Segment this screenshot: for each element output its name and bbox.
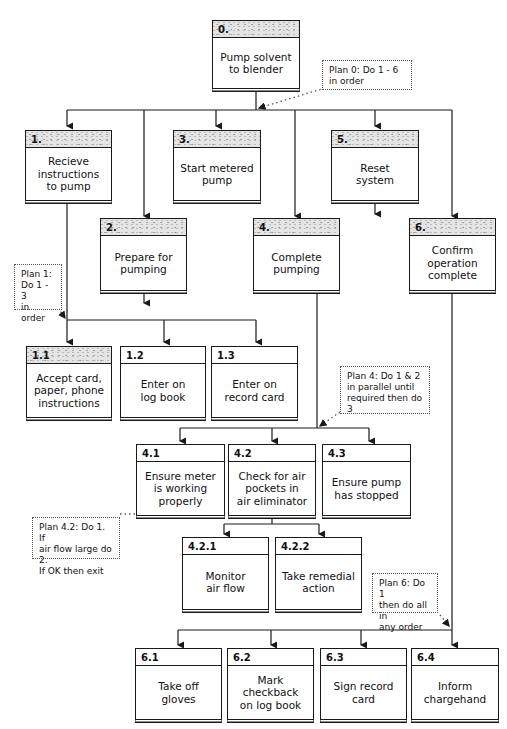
task-id: 1.1 bbox=[27, 347, 111, 364]
plan-0-note: Plan 0: Do 1 - 6 in order bbox=[322, 60, 412, 90]
task-box-4-1: 4.1 Ensure meter is working properly bbox=[136, 444, 225, 516]
task-id: 4.1 bbox=[137, 445, 224, 462]
task-label: Check for air pockets in air eliminator bbox=[229, 462, 315, 515]
task-box-1-2: 1.2 Enter on log book bbox=[120, 346, 206, 418]
hta-diagram: 0. Pump solvent to blender 1. Recieve in… bbox=[0, 0, 507, 729]
task-label: Start metered pump bbox=[174, 148, 260, 200]
task-box-1: 1. Recieve instructions to pump bbox=[25, 130, 112, 201]
task-box-6-1: 6.1 Take off gloves bbox=[135, 648, 222, 720]
task-id: 1.3 bbox=[212, 347, 297, 364]
plan-4-note: Plan 4: Do 1 & 2 in parallel until requi… bbox=[340, 366, 430, 414]
task-label: Inform chargehand bbox=[412, 666, 498, 719]
task-label: Take off gloves bbox=[136, 666, 221, 719]
task-id: 4.2.1 bbox=[183, 538, 268, 555]
task-id: 6. bbox=[410, 219, 495, 236]
task-box-3: 3. Start metered pump bbox=[173, 130, 261, 201]
task-box-4: 4. Complete pumping bbox=[253, 218, 340, 291]
task-box-1-1: 1.1 Accept card, paper, phone instructio… bbox=[26, 346, 112, 418]
task-box-6: 6. Confirm operation complete bbox=[409, 218, 496, 291]
task-box-6-2: 6.2 Mark checkback on log book bbox=[227, 648, 314, 720]
task-label: Accept card, paper, phone instructions bbox=[27, 364, 111, 417]
task-box-4-2-1: 4.2.1 Monitor air flow bbox=[182, 537, 269, 610]
task-label: Ensure meter is working properly bbox=[137, 462, 224, 515]
task-label: Reset system bbox=[332, 148, 418, 200]
task-id: 1.2 bbox=[121, 347, 205, 364]
task-label: Monitor air flow bbox=[183, 555, 268, 609]
task-id: 6.2 bbox=[228, 649, 313, 666]
task-id: 4.3 bbox=[323, 445, 410, 462]
task-id: 5. bbox=[332, 131, 418, 148]
task-id: 6.1 bbox=[136, 649, 221, 666]
task-label: Sign record card bbox=[321, 666, 406, 719]
task-label: Take remedial action bbox=[276, 555, 361, 609]
task-label: Enter on record card bbox=[212, 364, 297, 417]
task-box-6-3: 6.3 Sign record card bbox=[320, 648, 407, 720]
task-box-6-4: 6.4 Inform chargehand bbox=[411, 648, 499, 720]
task-box-4-2: 4.2 Check for air pockets in air elimina… bbox=[228, 444, 316, 516]
task-label: Mark checkback on log book bbox=[228, 666, 313, 719]
task-id: 6.3 bbox=[321, 649, 406, 666]
task-id: 3. bbox=[174, 131, 260, 148]
task-box-0: 0. Pump solvent to blender bbox=[212, 20, 300, 89]
plan-6-note: Plan 6: Do 1 then do all in any order bbox=[372, 573, 438, 613]
task-id: 4. bbox=[254, 219, 339, 236]
plan-42-note: Plan 4.2: Do 1. If air flow large do 2. … bbox=[32, 517, 120, 559]
plan-1-note: Plan 1: Do 1 - 3 in order bbox=[14, 264, 62, 310]
task-box-1-3: 1.3 Enter on record card bbox=[211, 346, 298, 418]
task-id: 1. bbox=[26, 131, 111, 148]
task-id: 6.4 bbox=[412, 649, 498, 666]
task-id: 2. bbox=[101, 219, 186, 236]
task-label: Complete pumping bbox=[254, 236, 339, 290]
task-box-4-2-2: 4.2.2 Take remedial action bbox=[275, 537, 362, 610]
task-box-2: 2. Prepare for pumping bbox=[100, 218, 187, 291]
task-label: Confirm operation complete bbox=[410, 236, 495, 290]
task-box-5: 5. Reset system bbox=[331, 130, 419, 201]
task-label: Prepare for pumping bbox=[101, 236, 186, 290]
task-label: Enter on log book bbox=[121, 364, 205, 417]
task-box-4-3: 4.3 Ensure pump has stopped bbox=[322, 444, 411, 516]
task-id: 4.2 bbox=[229, 445, 315, 462]
task-label: Recieve instructions to pump bbox=[26, 148, 111, 200]
task-label: Pump solvent to blender bbox=[213, 38, 299, 88]
task-label: Ensure pump has stopped bbox=[323, 462, 410, 515]
task-id: 0. bbox=[213, 21, 299, 38]
task-id: 4.2.2 bbox=[276, 538, 361, 555]
